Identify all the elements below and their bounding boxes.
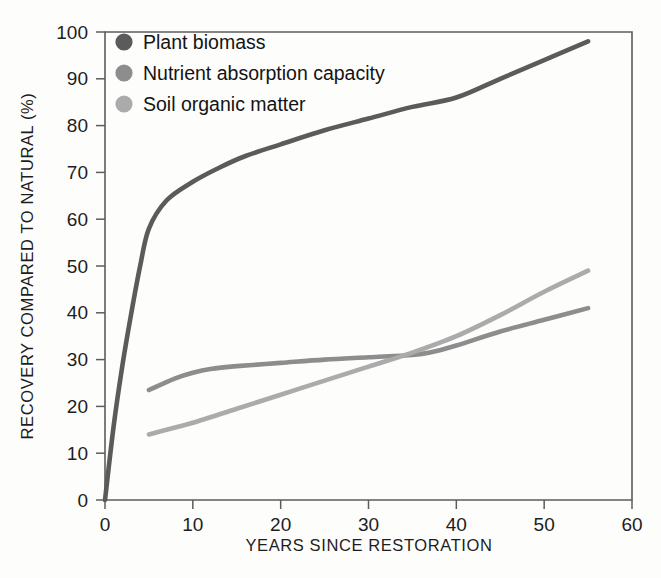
x-tick-label: 0: [100, 514, 111, 535]
legend-item-label: Soil organic matter: [143, 93, 306, 115]
legend-item-label: Nutrient absorption capacity: [143, 62, 385, 84]
y-tick-label: 90: [67, 68, 88, 89]
series-line-soil-organic-matter: [149, 271, 588, 435]
y-tick-label: 10: [67, 443, 88, 464]
chart-legend: Plant biomassNutrient absorption capacit…: [115, 31, 385, 115]
recovery-line-chart: 0102030405060 0102030405060708090100 YEA…: [0, 0, 661, 578]
x-axis-title: YEARS SINCE RESTORATION: [246, 536, 493, 554]
y-tick-label: 100: [56, 22, 88, 43]
x-tick-label: 20: [270, 514, 291, 535]
series-line-nutrient-absorption-capacity: [149, 308, 588, 390]
legend-swatch-icon: [115, 95, 132, 112]
legend-swatch-icon: [115, 64, 132, 81]
x-axis-tick-labels: 0102030405060: [100, 514, 643, 535]
y-axis-tick-labels: 0102030405060708090100: [56, 22, 88, 511]
chart-canvas: 0102030405060 0102030405060708090100 YEA…: [0, 0, 661, 578]
x-tick-label: 50: [534, 514, 555, 535]
y-tick-label: 80: [67, 115, 88, 136]
x-tick-label: 30: [358, 514, 379, 535]
y-tick-label: 60: [67, 209, 88, 230]
x-tick-label: 40: [446, 514, 467, 535]
y-axis-ticks: [96, 32, 105, 500]
y-axis-title: RECOVERY COMPARED TO NATURAL (%): [18, 93, 36, 440]
y-tick-label: 40: [67, 302, 88, 323]
y-tick-label: 70: [67, 162, 88, 183]
x-tick-label: 10: [182, 514, 203, 535]
x-tick-label: 60: [621, 514, 642, 535]
legend-item-label: Plant biomass: [143, 31, 266, 53]
y-tick-label: 20: [67, 396, 88, 417]
y-tick-label: 0: [77, 490, 88, 511]
x-axis-ticks: [105, 500, 632, 509]
y-tick-label: 30: [67, 349, 88, 370]
legend-swatch-icon: [115, 33, 132, 50]
y-tick-label: 50: [67, 256, 88, 277]
